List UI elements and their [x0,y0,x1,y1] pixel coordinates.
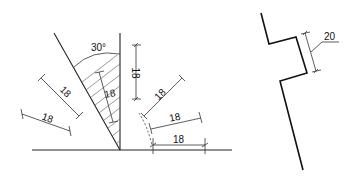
dimension-label: 18 [152,86,168,102]
dimension-right-middle: 18 [149,111,202,134]
hatched-region [60,49,125,185]
right-figure: 20 [261,13,339,170]
left-figure: 30° 18 18 18 18 [21,33,232,185]
dimension-label: 18 [173,134,185,145]
angle-arc [74,53,120,67]
drawing-canvas: 30° 18 18 18 18 [0,0,360,185]
dimension-right-lower: 18 [150,134,208,154]
dimension-label: 18 [168,111,182,124]
dimension-vertical-right: 18 [130,43,141,101]
angle-label: 30° [91,42,106,53]
dimension-label: 18 [103,87,116,100]
dimension-offset: 20 [301,31,339,73]
dimension-label: 20 [324,31,336,42]
dimension-label: 18 [130,67,141,79]
dimension-left-lower: 18 [21,109,71,136]
offset-profile [261,13,307,170]
dimension-label: 18 [41,111,56,125]
